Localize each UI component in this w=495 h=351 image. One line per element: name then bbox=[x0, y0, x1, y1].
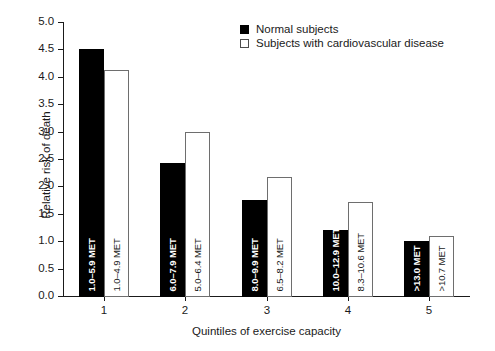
y-tick-label: 4.5 bbox=[38, 43, 54, 55]
y-tick-mark bbox=[58, 186, 63, 187]
y-tick-mark bbox=[58, 214, 63, 215]
legend-item-cvd: Subjects with cardiovascular disease bbox=[240, 36, 444, 50]
x-tick-label: 3 bbox=[247, 304, 287, 317]
x-tick-label: 1 bbox=[84, 304, 124, 317]
bar-value-label: 5.0–6.4 MET bbox=[192, 239, 202, 292]
bar-value-label: 8.0–9.9 MET bbox=[249, 239, 259, 292]
y-tick-mark bbox=[58, 241, 63, 242]
y-tick-mark bbox=[58, 132, 63, 133]
x-tick-label: 2 bbox=[165, 304, 205, 317]
x-tick-label: 5 bbox=[409, 304, 449, 317]
bar-value-label: 6.5–8.2 MET bbox=[274, 239, 284, 292]
bar-normal-q4: 10.0–12.9 MET bbox=[323, 230, 348, 297]
bar-cvd-q1: 1.0–4.9 MET bbox=[104, 70, 129, 297]
bar-value-label: 10.0–12.9 MET bbox=[330, 228, 340, 292]
legend-label: Normal subjects bbox=[256, 23, 338, 35]
bar-value-label: 6.0–7.9 MET bbox=[167, 239, 177, 292]
bar-cvd-q5: >10.7 MET bbox=[429, 236, 454, 297]
bar-value-label: >10.7 MET bbox=[436, 246, 446, 292]
bar-value-label: 8.3–10.6 MET bbox=[355, 234, 365, 292]
legend-item-normal: Normal subjects bbox=[240, 22, 444, 36]
y-tick-label: 5.0 bbox=[38, 16, 54, 28]
x-tick-label: 4 bbox=[328, 304, 368, 317]
legend-swatch-icon bbox=[240, 39, 249, 48]
y-tick-mark bbox=[58, 269, 63, 270]
bar-value-label: >13.0 MET bbox=[411, 246, 421, 292]
bar-value-label: 1.0–4.9 MET bbox=[111, 239, 121, 292]
bar-value-label: 1.0–5.9 MET bbox=[86, 239, 96, 292]
y-tick-mark bbox=[58, 77, 63, 78]
bar-normal-q5: >13.0 MET bbox=[404, 241, 429, 297]
y-tick-mark bbox=[58, 49, 63, 50]
bar-normal-q1: 1.0–5.9 MET bbox=[79, 49, 104, 297]
y-tick-label: 0.0 bbox=[38, 290, 54, 302]
x-axis-title: Quintiles of exercise capacity bbox=[63, 325, 470, 338]
y-tick-mark bbox=[58, 159, 63, 160]
legend-label: Subjects with cardiovascular disease bbox=[256, 37, 444, 49]
bar-cvd-q2: 5.0–6.4 MET bbox=[185, 132, 210, 297]
bar-normal-q2: 6.0–7.9 MET bbox=[160, 163, 185, 297]
bar-cvd-q4: 8.3–10.6 MET bbox=[348, 202, 373, 297]
y-tick-mark bbox=[58, 104, 63, 105]
y-axis-title: Relative risk of death bbox=[40, 55, 52, 275]
bar-normal-q3: 8.0–9.9 MET bbox=[242, 200, 267, 297]
bar-cvd-q3: 6.5–8.2 MET bbox=[267, 177, 292, 297]
y-axis-line bbox=[63, 22, 64, 296]
bar-chart: 0.00.51.01.52.02.53.03.54.04.55.0 Relati… bbox=[0, 0, 495, 351]
chart-legend: Normal subjectsSubjects with cardiovascu… bbox=[240, 22, 444, 50]
y-tick-mark bbox=[58, 22, 63, 23]
legend-swatch-icon bbox=[240, 25, 249, 34]
